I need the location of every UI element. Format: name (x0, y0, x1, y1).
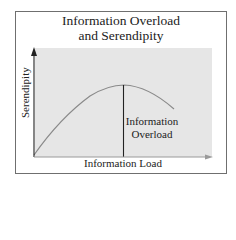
annotation-line1: Information (124, 115, 180, 128)
y-axis-label: Serendipity (19, 78, 31, 118)
annotation-line2: Overload (124, 128, 180, 141)
overload-annotation: Information Overload (124, 115, 180, 141)
x-axis-label: Information Load (34, 157, 212, 169)
